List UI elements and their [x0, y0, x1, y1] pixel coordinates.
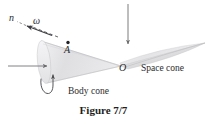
label-omega: ω: [33, 16, 40, 26]
omega-vector-arrow: [27, 26, 52, 36]
omega-vector-dashes: [30, 26, 58, 37]
label-space-cone: Space cone: [141, 64, 184, 74]
label-n: n: [9, 13, 14, 23]
label-body-cone: Body cone: [68, 87, 109, 97]
figure-container: n ω A O Space cone Body cone Figure 7/7: [0, 0, 207, 124]
body-cone-group: [35, 40, 121, 84]
label-point-a: A: [64, 45, 70, 55]
figure-caption: Figure 7/7: [0, 104, 207, 116]
n-axis-dashes: [17, 22, 26, 26]
label-point-o: O: [119, 63, 126, 73]
